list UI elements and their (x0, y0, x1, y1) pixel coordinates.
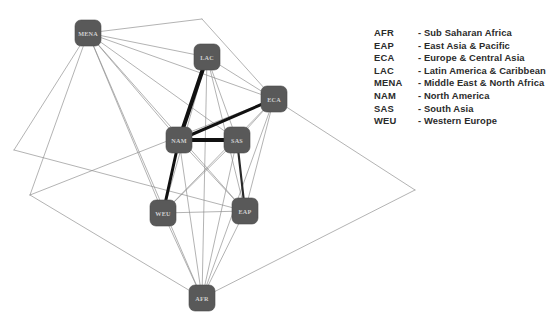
node-shape-lac[interactable] (194, 44, 220, 70)
edge-NAM-AFR (179, 140, 202, 298)
legend-row-lac: LAC- Latin America & Caribbean (374, 65, 534, 78)
legend-row-afr: AFR- Sub Saharan Africa (374, 27, 534, 40)
node-mena[interactable]: MENA (75, 20, 101, 46)
node-eca[interactable]: ECA (261, 86, 287, 112)
node-shape-nam[interactable] (166, 127, 192, 153)
edge-ECA-WEU (163, 99, 274, 213)
node-shape-eap[interactable] (232, 198, 258, 224)
legend-desc-eca: - Europe & Central Asia (418, 52, 525, 65)
legend-desc-nam: - North America (418, 90, 489, 103)
legend-row-weu: WEU- Western Europe (374, 115, 534, 128)
outer-edge-V-left-MENA (30, 33, 88, 195)
legend-abbr-weu: WEU (374, 115, 418, 128)
legend-abbr-afr: AFR (374, 27, 418, 40)
legend-abbr-mena: MENA (374, 77, 418, 90)
legend-desc-lac: - Latin America & Caribbean (418, 65, 546, 78)
legend-abbr-eca: ECA (374, 52, 418, 65)
legend-desc-weu: - Western Europe (418, 115, 497, 128)
node-afr[interactable]: AFR (189, 285, 215, 311)
node-shape-afr[interactable] (189, 285, 215, 311)
legend-row-nam: NAM- North America (374, 90, 534, 103)
node-shape-sas[interactable] (224, 127, 250, 153)
node-shape-mena[interactable] (75, 20, 101, 46)
legend-row-mena: MENA- Middle East & North Africa (374, 77, 534, 90)
legend-desc-afr: - Sub Saharan Africa (418, 27, 512, 40)
legend-row-sas: SAS- South Asia (374, 103, 534, 116)
edge-LAC-AFR (202, 57, 207, 298)
node-layer: MENALACECANAMSASWEUEAPAFR (75, 20, 287, 311)
legend-abbr-sas: SAS (374, 103, 418, 116)
legend-desc-sas: - South Asia (418, 103, 474, 116)
node-shape-weu[interactable] (150, 200, 176, 226)
edge-SAS-AFR (202, 140, 237, 298)
outer-edge-V-upper-left-MENA (14, 33, 88, 150)
edge-layer (88, 33, 274, 298)
legend-row-eca: ECA- Europe & Central Asia (374, 52, 534, 65)
node-shape-eca[interactable] (261, 86, 287, 112)
node-eap[interactable]: EAP (232, 198, 258, 224)
outer-edge-V-upper-left-EAP (14, 150, 245, 211)
legend-abbr-lac: LAC (374, 65, 418, 78)
node-nam[interactable]: NAM (166, 127, 192, 153)
node-weu[interactable]: WEU (150, 200, 176, 226)
legend-row-eap: EAP- East Asia & Pacific (374, 40, 534, 53)
legend: AFR- Sub Saharan AfricaEAP- East Asia & … (374, 27, 534, 128)
edge-ECA-EAP (245, 99, 274, 211)
outer-edge-MENA-V-top (88, 19, 202, 33)
legend-abbr-nam: NAM (374, 90, 418, 103)
node-sas[interactable]: SAS (224, 127, 250, 153)
legend-desc-eap: - East Asia & Pacific (418, 40, 510, 53)
node-lac[interactable]: LAC (194, 44, 220, 70)
legend-desc-mena: - Middle East & North Africa (418, 77, 544, 90)
legend-abbr-eap: EAP (374, 40, 418, 53)
